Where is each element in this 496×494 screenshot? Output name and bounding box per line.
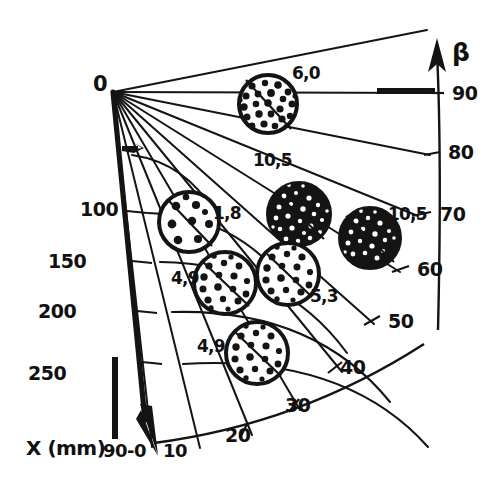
x-tick-label-150: 150 [48, 252, 86, 271]
x-tick-label-200: 200 [38, 302, 76, 321]
polar-fan-diagram: 0 100 150 200 250 X (mm) β 90 80 70 60 5… [0, 0, 496, 494]
sample-label-3: 1,8 [213, 205, 241, 222]
origin-label: 0 [93, 74, 108, 95]
sample-circle-2[interactable] [268, 183, 330, 245]
bar-vertical-zero [112, 357, 118, 439]
sample-circle-3[interactable] [159, 192, 219, 252]
sample-circle-5[interactable] [194, 252, 256, 314]
x-tick-label-250: 250 [28, 364, 66, 383]
beta-tick-label-80: 80 [448, 143, 473, 162]
sample-label-2: 10,5 [253, 152, 292, 169]
beta-tick-label-90: 90 [452, 84, 477, 103]
x-tick-label-100: 100 [80, 200, 118, 219]
bottom-label-10: 10 [163, 442, 187, 460]
beta-tick-label-50: 50 [388, 312, 413, 331]
beta-tick-label-40: 40 [340, 358, 365, 377]
diagram-canvas [0, 0, 496, 494]
sample-label-6: 5,3 [310, 288, 338, 305]
sample-label-4: 10,5 [388, 206, 427, 223]
sample-label-1: 6,0 [292, 65, 320, 82]
x-axis-title: X (mm) [26, 438, 105, 458]
sample-label-5: 4,9 [171, 270, 199, 287]
beta-tick-label-60: 60 [417, 260, 442, 279]
beta-tick-label-70: 70 [440, 205, 465, 224]
beta-tick-label-30: 30 [285, 396, 310, 415]
sample-label-7: 4,9 [197, 338, 225, 355]
sample-circle-1[interactable] [237, 71, 297, 133]
bottom-label-90-0: 90-0 [103, 442, 146, 460]
beta-axis-symbol: β [452, 40, 470, 65]
beta-tick-label-20: 20 [225, 426, 250, 445]
sample-circle-7[interactable] [226, 322, 288, 384]
bar-horizontal-90 [377, 88, 435, 94]
